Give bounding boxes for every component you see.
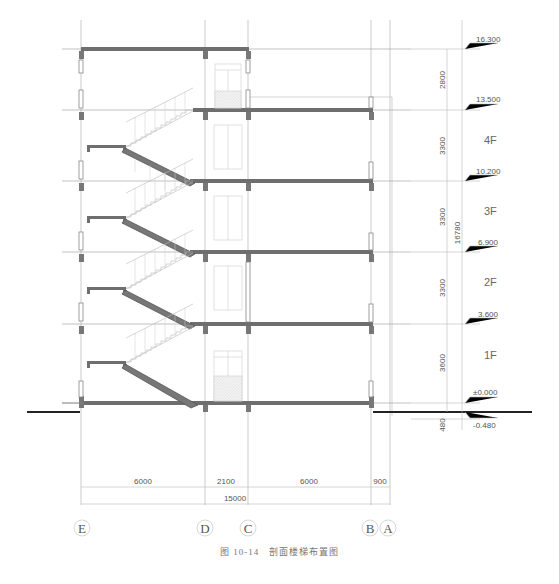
vertical-dimension-texts: 2800 3300 3300 3300 3600 480 16780 xyxy=(438,71,462,432)
level-16300: 16.300 xyxy=(476,35,501,44)
dim-3300-2f: 3300 xyxy=(438,279,447,297)
figure-caption: 图 10-14 剖面楼梯布置图 xyxy=(0,545,559,558)
axis-bubble-b: B xyxy=(362,520,378,536)
elevation-labels: 16.300 13.500 10.200 6.900 3.600 ±0.000 … xyxy=(473,35,501,430)
dim-6000-e-d: 6000 xyxy=(134,477,152,486)
level-6900: 6.900 xyxy=(478,238,499,247)
dim-total-15000: 15000 xyxy=(224,494,247,503)
caption-number: 图 10-14 xyxy=(220,547,259,557)
caption-title: 剖面楼梯布置图 xyxy=(269,547,339,557)
horizontal-dimension-texts: 6000 2100 6000 900 15000 xyxy=(134,477,387,503)
floor-label-4f: 4F xyxy=(484,134,497,146)
svg-text:E: E xyxy=(78,521,86,536)
floor-label-3f: 3F xyxy=(484,205,497,217)
dim-900-b-a: 900 xyxy=(373,477,387,486)
doors xyxy=(214,64,242,401)
stair-section-drawing: 2800 3300 3300 3300 3600 480 16780 16.30… xyxy=(0,0,559,584)
level-3600: 3.600 xyxy=(478,310,499,319)
axis-bubble-e: E xyxy=(74,520,90,536)
level-13500: 13.500 xyxy=(476,95,501,104)
axis-bubble-d: D xyxy=(197,520,213,536)
svg-text:A: A xyxy=(383,521,393,536)
dim-480: 480 xyxy=(438,418,447,432)
stair-flights-cut xyxy=(122,148,198,408)
dim-total-16780: 16780 xyxy=(453,221,462,244)
svg-text:D: D xyxy=(200,521,209,536)
level-minus-480: -0.480 xyxy=(473,421,496,430)
dim-3600: 3600 xyxy=(438,354,447,372)
level-10200: 10.200 xyxy=(476,167,501,176)
svg-text:B: B xyxy=(366,521,375,536)
dim-3300-4f: 3300 xyxy=(438,137,447,155)
dim-2800: 2800 xyxy=(438,71,447,89)
svg-text:C: C xyxy=(244,521,253,536)
floor-label-2f: 2F xyxy=(484,276,497,288)
axis-bubbles: E D C B A xyxy=(74,520,396,536)
level-0000: ±0.000 xyxy=(473,388,498,397)
dim-3300-3f: 3300 xyxy=(438,208,447,226)
dim-2100-d-c: 2100 xyxy=(217,477,235,486)
axis-bubble-a: A xyxy=(380,520,396,536)
axis-bubble-c: C xyxy=(240,520,256,536)
dim-6000-c-b: 6000 xyxy=(300,477,318,486)
floor-label-1f: 1F xyxy=(484,349,497,361)
